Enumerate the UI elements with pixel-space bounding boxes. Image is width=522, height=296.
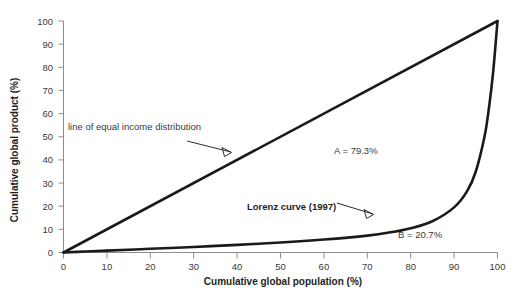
lorenz-label-leader bbox=[337, 203, 374, 219]
y-tick-label: 0 bbox=[48, 247, 53, 258]
equality-line bbox=[64, 21, 498, 253]
x-tick-label: 60 bbox=[319, 261, 330, 272]
x-tick-label: 0 bbox=[61, 261, 66, 272]
x-axis-title: Cumulative global population (%) bbox=[204, 276, 362, 287]
y-axis-ticks bbox=[59, 21, 64, 253]
x-tick-label: 90 bbox=[449, 261, 460, 272]
equality-label-leader bbox=[187, 141, 232, 157]
area-b-annotation: B = 20.7% bbox=[398, 229, 443, 240]
x-axis-ticks bbox=[64, 253, 498, 259]
x-axis-tick-labels: 0 10 20 30 40 50 60 70 80 90 100 bbox=[61, 261, 506, 272]
x-tick-label: 80 bbox=[405, 261, 416, 272]
equality-line-annotation: line of equal income distribution bbox=[68, 121, 201, 132]
y-tick-label: 100 bbox=[37, 16, 53, 27]
y-tick-label: 40 bbox=[42, 154, 53, 165]
x-tick-label: 100 bbox=[490, 261, 506, 272]
y-axis-title: Cumulative global product (%) bbox=[9, 78, 20, 222]
lorenz-curve-chart: Cumulative global product (%) Cumulative… bbox=[0, 0, 522, 296]
y-tick-label: 60 bbox=[42, 108, 53, 119]
x-tick-label: 70 bbox=[362, 261, 373, 272]
y-tick-label: 10 bbox=[42, 224, 53, 235]
x-tick-label: 20 bbox=[145, 261, 156, 272]
x-tick-label: 40 bbox=[232, 261, 243, 272]
y-tick-label: 50 bbox=[42, 131, 53, 142]
x-tick-label: 50 bbox=[275, 261, 286, 272]
y-tick-label: 20 bbox=[42, 201, 53, 212]
y-tick-label: 70 bbox=[42, 85, 53, 96]
y-axis-tick-labels: 0 10 20 30 40 50 60 70 80 90 100 bbox=[37, 16, 53, 259]
x-tick-label: 30 bbox=[188, 261, 199, 272]
y-tick-label: 90 bbox=[42, 39, 53, 50]
x-tick-label: 10 bbox=[102, 261, 113, 272]
y-tick-label: 30 bbox=[42, 178, 53, 189]
y-tick-label: 80 bbox=[42, 62, 53, 73]
area-a-annotation: A = 79.3% bbox=[334, 145, 378, 156]
chart-canvas: Cumulative global product (%) Cumulative… bbox=[0, 0, 522, 296]
lorenz-curve-annotation: Lorenz curve (1997) bbox=[247, 201, 336, 212]
